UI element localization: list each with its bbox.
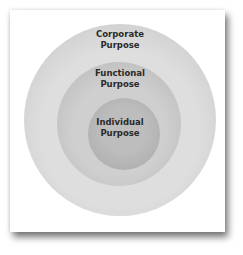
label-line: Purpose <box>70 128 170 139</box>
label-line: Functional <box>70 68 170 79</box>
diagram-card: Corporate Purpose Functional Purpose Ind… <box>10 10 225 232</box>
label-line: Purpose <box>70 79 170 90</box>
functional-purpose-label: Functional Purpose <box>70 68 170 90</box>
label-line: Individual <box>70 117 170 128</box>
individual-purpose-label: Individual Purpose <box>70 117 170 139</box>
corporate-purpose-label: Corporate Purpose <box>70 29 170 51</box>
label-line: Corporate <box>70 29 170 40</box>
label-line: Purpose <box>70 40 170 51</box>
